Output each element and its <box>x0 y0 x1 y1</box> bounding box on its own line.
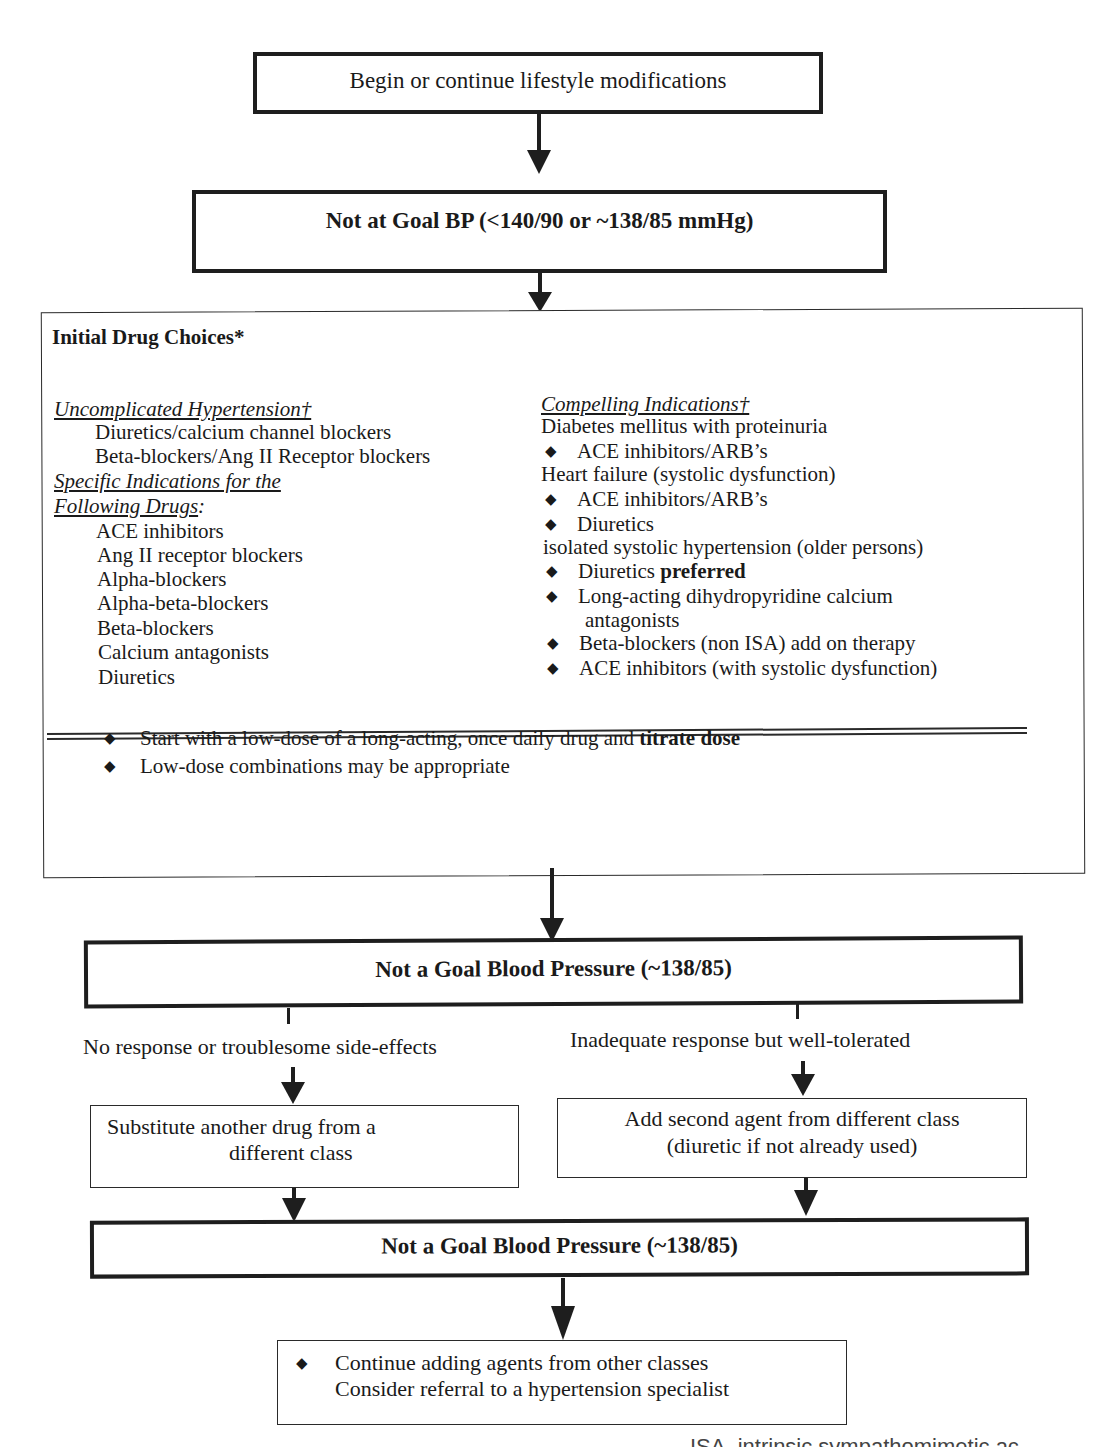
compelling-drug: ◆Long-acting dihydropyridine calcium <box>546 584 893 609</box>
footnote-cutoff: ISA, intrinsic sympathomimetic ac <box>690 1436 1114 1447</box>
bullet-diamond-icon: ◆ <box>104 757 140 775</box>
bullet-diamond-icon: ◆ <box>296 1354 335 1372</box>
branch-right-action-box: Add second agent from different class (d… <box>557 1098 1027 1178</box>
specific-heading-text: Following Drugs <box>54 494 198 518</box>
uncomplicated-item: Beta-blockers/Ang II Receptor blockers <box>95 444 430 469</box>
branch-left-condition: No response or troublesome side-effects <box>83 1034 437 1060</box>
branch-line-left <box>287 1008 290 1024</box>
step-not-goal-bp-box: Not a Goal Blood Pressure (~138/85) <box>84 936 1023 1009</box>
dosing-note: ◆Low-dose combinations may be appropriat… <box>104 754 510 779</box>
step-not-at-goal-box: Not at Goal BP (<140/90 or ~138/85 mmHg) <box>192 190 887 273</box>
arrow-line <box>550 868 554 924</box>
bullet-diamond-icon: ◆ <box>104 729 140 747</box>
final-recommendation-box: ◆Continue adding agents from other class… <box>277 1340 847 1425</box>
arrow-down-icon <box>528 292 552 312</box>
bullet-diamond-icon: ◆ <box>546 562 578 580</box>
compelling-condition: Diabetes mellitus with proteinuria <box>541 414 827 439</box>
arrow-down-icon <box>551 1306 575 1340</box>
arrow-down-icon <box>282 1198 306 1222</box>
branch-line-right <box>796 1003 799 1019</box>
compelling-drug: ◆Beta-blockers (non ISA) add on therapy <box>547 631 915 656</box>
step-not-goal-bp-box-2: Not a Goal Blood Pressure (~138/85) <box>90 1217 1029 1278</box>
specific-heading-line2: Following Drugs: <box>54 494 205 519</box>
specific-item: Calcium antagonists <box>98 640 269 665</box>
specific-heading-line1: Specific Indications for the <box>54 469 281 494</box>
compelling-condition: Heart failure (systolic dysfunction) <box>541 462 836 487</box>
initial-drug-choices-title: Initial Drug Choices* <box>52 325 245 350</box>
arrow-line <box>537 114 541 154</box>
specific-item: Diuretics <box>98 665 175 690</box>
compelling-condition: isolated systolic hypertension (older pe… <box>543 535 923 560</box>
step-not-goal-bp-label-2: Not a Goal Blood Pressure (~138/85) <box>381 1232 738 1259</box>
final-line1: ◆Continue adding agents from other class… <box>296 1350 708 1376</box>
compelling-drug-cont: antagonists <box>585 608 680 633</box>
branch-left-action-line1: Substitute another drug from a <box>107 1114 376 1140</box>
branch-left-action-box: Substitute another drug from a different… <box>90 1105 519 1188</box>
step-lifestyle-box: Begin or continue lifestyle modification… <box>253 52 823 114</box>
specific-item: Alpha-blockers <box>97 567 226 592</box>
bullet-diamond-icon: ◆ <box>547 659 579 677</box>
arrow-down-icon <box>281 1082 305 1104</box>
specific-heading-colon: : <box>198 494 205 518</box>
arrow-down-icon <box>791 1074 815 1096</box>
compelling-drug: ◆Diuretics <box>545 512 654 537</box>
branch-right-action-line2: (diuretic if not already used) <box>667 1132 917 1159</box>
bullet-diamond-icon: ◆ <box>545 442 577 460</box>
specific-item: ACE inhibitors <box>96 519 224 544</box>
arrow-down-icon <box>527 150 551 174</box>
specific-item: Ang II receptor blockers <box>97 543 303 568</box>
compelling-drug: ◆ACE inhibitors/ARB’s <box>545 487 768 512</box>
specific-item: Beta-blockers <box>97 616 214 641</box>
compelling-drug: ◆Diuretics preferred <box>546 559 746 584</box>
bullet-diamond-icon: ◆ <box>545 515 577 533</box>
step-not-at-goal-label: Not at Goal BP (<140/90 or ~138/85 mmHg) <box>326 208 754 234</box>
step-not-goal-bp-label: Not a Goal Blood Pressure (~138/85) <box>375 955 732 983</box>
branch-left-action-line2: different class <box>229 1140 353 1166</box>
branch-right-condition: Inadequate response but well-tolerated <box>570 1027 910 1053</box>
bullet-diamond-icon: ◆ <box>547 634 579 652</box>
arrow-down-icon <box>794 1190 818 1216</box>
final-line2: Consider referral to a hypertension spec… <box>335 1376 729 1402</box>
compelling-drug: ◆ACE inhibitors/ARB’s <box>545 439 768 464</box>
step-lifestyle-label: Begin or continue lifestyle modification… <box>350 68 727 94</box>
branch-right-action-line1: Add second agent from different class <box>625 1105 960 1132</box>
specific-item: Alpha-beta-blockers <box>97 591 268 616</box>
uncomplicated-heading: Uncomplicated Hypertension† <box>54 397 311 422</box>
bullet-diamond-icon: ◆ <box>545 490 577 508</box>
bullet-diamond-icon: ◆ <box>546 587 578 605</box>
compelling-drug: ◆ACE inhibitors (with systolic dysfuncti… <box>547 656 937 681</box>
uncomplicated-item: Diuretics/calcium channel blockers <box>95 420 391 445</box>
dosing-note: ◆Start with a low-dose of a long-acting,… <box>104 726 740 751</box>
